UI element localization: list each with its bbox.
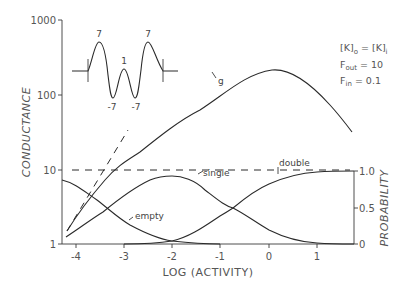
inset-label-top-right: 7 (145, 29, 151, 39)
x-tick--4: -4 (71, 251, 81, 262)
annotation-f-in: Fin = 0.1 (340, 75, 381, 88)
g-pointer (212, 72, 216, 78)
y-axis-label-right: PROBABILITY (378, 169, 391, 247)
label-g: g (218, 76, 224, 86)
label-double: double (279, 158, 310, 168)
y-tick-1: 1 (50, 239, 56, 250)
label-single: single (203, 168, 230, 178)
right-ticks: 1.0 0.5 0 (354, 166, 375, 250)
y-tick-10: 10 (43, 165, 56, 176)
inset-label-top-left: 7 (96, 29, 102, 39)
parameter-annotations: [K]o = [K]i Fout = 10 Fin = 0.1 (340, 42, 388, 88)
y-tick-1000: 1000 (31, 15, 56, 26)
inset-label-mid: 1 (121, 56, 127, 66)
y-axis-label-left: CONDUCTANCE (20, 87, 33, 177)
annotation-f-out: Fout = 10 (340, 59, 383, 72)
chart: 1000 100 10 1 1.0 0.5 0 -4 -3 -2 -1 0 1 … (0, 0, 402, 289)
x-axis-label: LOG (ACTIVITY) (162, 266, 253, 279)
empty-pointer (129, 217, 133, 220)
label-empty: empty (135, 211, 165, 221)
x-tick-1: 1 (314, 251, 320, 262)
inset-label-bot-left: -7 (108, 102, 117, 112)
x-tick--1: -1 (215, 251, 225, 262)
x-ticks: -4 -3 -2 -1 0 1 (71, 244, 320, 262)
y-right-tick-0: 0 (359, 239, 365, 250)
x-tick--3: -3 (119, 251, 129, 262)
y-right-tick-1: 1.0 (359, 166, 375, 177)
annotation-k-equal: [K]o = [K]i (340, 42, 388, 56)
left-ticks: 1000 100 10 1 (31, 15, 62, 250)
double-curve (124, 171, 354, 244)
inset-label-bot-right: -7 (132, 102, 141, 112)
x-tick-0: 0 (266, 251, 272, 262)
inset-energy-profile: 7 7 1 -7 -7 (72, 29, 178, 112)
y-tick-100: 100 (37, 90, 56, 101)
y-right-tick-05: 0.5 (359, 203, 375, 214)
x-tick--2: -2 (167, 251, 177, 262)
